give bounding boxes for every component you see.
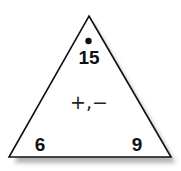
top-number: 15 <box>78 47 100 68</box>
triangle-outline <box>9 16 171 157</box>
fact-triangle-diagram: 15 +,− 6 9 <box>0 0 181 171</box>
bottom-right-number: 9 <box>132 134 143 155</box>
bottom-left-number: 6 <box>35 134 46 155</box>
top-marker-dot <box>85 38 91 44</box>
operations-label: +,− <box>70 91 108 113</box>
